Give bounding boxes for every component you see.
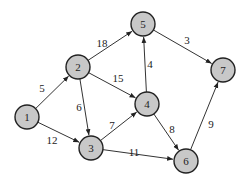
edge-weight-label: 15: [113, 72, 125, 84]
edges-layer: [36, 30, 219, 159]
node-label: 3: [88, 142, 94, 154]
edge-6-7: [191, 82, 219, 150]
edge-1-3: [38, 122, 80, 142]
node-label: 1: [24, 111, 30, 123]
node-label: 6: [183, 155, 189, 167]
edge-weight-label: 11: [129, 146, 140, 158]
edge-weight-label: 12: [47, 134, 58, 146]
node-7: 7: [211, 58, 235, 82]
edge-weight-label: 18: [97, 37, 109, 49]
directed-weighted-graph: 512181567114839 1234567: [0, 0, 248, 187]
edge-5-7: [153, 30, 211, 64]
edge-3-4: [100, 112, 136, 141]
node-label: 4: [144, 98, 150, 110]
edge-weights-layer: 512181567114839: [39, 34, 214, 158]
edge-2-5: [88, 31, 132, 60]
node-6: 6: [174, 149, 198, 173]
node-label: 2: [75, 61, 81, 73]
node-2: 2: [66, 55, 90, 79]
edge-weight-label: 6: [76, 101, 82, 113]
edge-weight-label: 5: [39, 82, 45, 94]
edge-4-6: [154, 114, 179, 150]
edge-weight-label: 7: [109, 119, 115, 131]
edge-weight-label: 4: [147, 58, 153, 70]
edge-4-5: [144, 37, 147, 92]
node-4: 4: [135, 92, 159, 116]
node-label: 7: [220, 64, 226, 76]
edge-weight-label: 8: [169, 123, 175, 135]
node-5: 5: [131, 12, 155, 36]
node-label: 5: [140, 18, 146, 30]
edge-weight-label: 9: [208, 118, 214, 130]
node-1: 1: [15, 105, 39, 129]
node-3: 3: [79, 136, 103, 160]
edge-weight-label: 3: [184, 34, 190, 46]
